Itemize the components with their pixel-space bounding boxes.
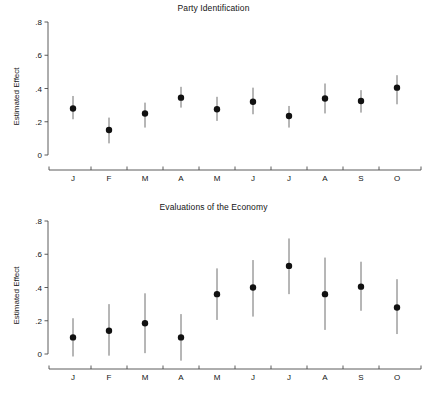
data-point-group <box>142 293 148 353</box>
estimate-marker <box>394 84 400 90</box>
estimate-marker <box>250 99 256 105</box>
data-point-group <box>322 84 328 114</box>
y-tick-label: .6 <box>35 51 42 60</box>
data-point-group <box>394 279 400 334</box>
data-point-group <box>286 106 292 128</box>
estimate-marker <box>70 334 76 340</box>
x-tick-label: A <box>322 174 328 183</box>
x-tick-label: F <box>107 174 112 183</box>
x-tick-label: J <box>251 174 255 183</box>
estimate-marker <box>178 94 184 100</box>
chart-panel-party-identification: Party Identification Estimated Effect 0.… <box>0 0 427 198</box>
estimate-marker <box>142 320 148 326</box>
x-tick-label: F <box>107 373 112 382</box>
data-point-group <box>106 118 112 144</box>
x-tick-label: M <box>214 174 221 183</box>
y-tick-label: .8 <box>35 217 42 226</box>
x-tick-label: M <box>214 373 221 382</box>
estimate-marker <box>286 113 292 119</box>
y-tick-label: .2 <box>35 317 42 326</box>
estimate-marker <box>214 106 220 112</box>
estimate-marker <box>106 328 112 334</box>
estimate-marker <box>286 263 292 269</box>
x-tick-label: J <box>71 373 75 382</box>
x-tick-label: J <box>71 174 75 183</box>
data-point-group <box>358 262 364 311</box>
data-point-group <box>70 318 76 356</box>
estimate-marker <box>358 98 364 104</box>
y-tick-label: .2 <box>35 118 42 127</box>
estimate-marker <box>142 110 148 116</box>
data-point-group <box>106 304 112 356</box>
estimate-marker <box>358 283 364 289</box>
y-tick-label: .8 <box>35 18 42 27</box>
data-point-group <box>142 103 148 128</box>
chart-panel-evaluations-economy: Evaluations of the Economy Estimated Eff… <box>0 199 427 397</box>
x-tick-label: A <box>178 373 184 382</box>
figure-estimated-effects: Party Identification Estimated Effect 0.… <box>0 0 427 397</box>
y-tick-label: 0 <box>38 151 43 160</box>
estimate-marker <box>70 105 76 111</box>
y-tick-label: .4 <box>35 85 42 94</box>
estimate-marker <box>106 127 112 133</box>
y-tick-label: 0 <box>38 350 43 359</box>
estimate-marker <box>322 291 328 297</box>
x-tick-label: S <box>358 174 363 183</box>
plot-area-bottom: 0.2.4.6.8JFMAMJJASO <box>0 199 427 397</box>
data-point-group <box>358 90 364 112</box>
data-point-group <box>250 260 256 317</box>
x-tick-label: J <box>287 373 291 382</box>
estimate-marker <box>322 95 328 101</box>
data-point-group <box>178 314 184 361</box>
data-point-group <box>214 97 220 121</box>
data-point-group <box>394 75 400 104</box>
x-tick-label: M <box>142 373 149 382</box>
x-tick-label: S <box>358 373 363 382</box>
data-point-group <box>250 88 256 115</box>
x-tick-label: O <box>394 373 400 382</box>
x-tick-label: O <box>394 174 400 183</box>
estimate-marker <box>214 291 220 297</box>
estimate-marker <box>394 304 400 310</box>
data-point-group <box>214 268 220 320</box>
estimate-marker <box>178 334 184 340</box>
y-tick-label: .4 <box>35 284 42 293</box>
estimate-marker <box>250 284 256 290</box>
x-tick-label: A <box>178 174 184 183</box>
data-point-group <box>70 96 76 119</box>
data-point-group <box>322 258 328 330</box>
data-point-group <box>178 87 184 108</box>
y-tick-label: .6 <box>35 250 42 259</box>
x-tick-label: M <box>142 174 149 183</box>
x-tick-label: A <box>322 373 328 382</box>
x-tick-label: J <box>251 373 255 382</box>
data-point-group <box>286 238 292 294</box>
plot-area-top: 0.2.4.6.8JFMAMJJASO <box>0 0 427 198</box>
x-tick-label: J <box>287 174 291 183</box>
